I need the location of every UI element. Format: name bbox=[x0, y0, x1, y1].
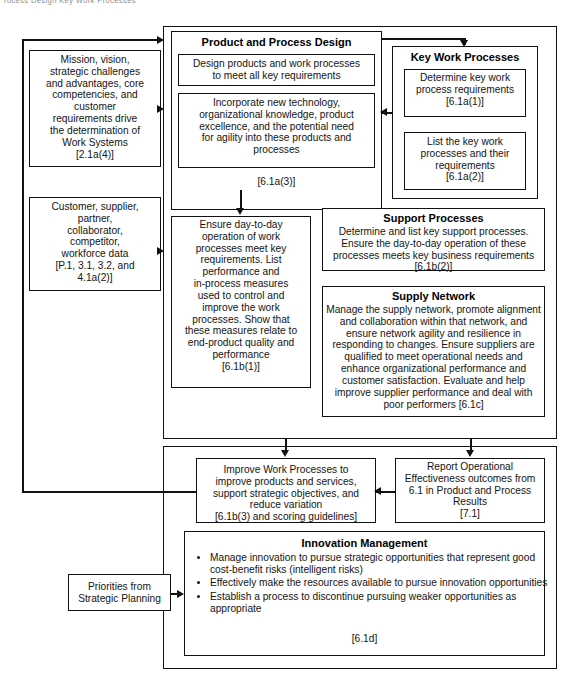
design-to-keywork-arrowhead bbox=[460, 40, 468, 47]
feedback-loop-bottom-segment bbox=[22, 491, 196, 493]
input-box-customer-data-text: Customer, supplier, partner, collaborato… bbox=[31, 201, 159, 284]
support-processes-text: Determine and list key support processes… bbox=[323, 226, 544, 273]
product-and-process-design-title: Product and Process Design bbox=[171, 36, 382, 49]
upper-to-improve-arrowhead bbox=[281, 450, 289, 457]
feedback-loop-vertical-left bbox=[22, 39, 24, 492]
innovation-management-bullet-list: Manage innovation to pursue strategic op… bbox=[197, 552, 548, 616]
input-box-priorities-text: Priorities from Strategic Planning bbox=[69, 581, 170, 605]
product-and-process-design-code: [6.1a(3)] bbox=[171, 176, 382, 188]
top-cropped-text-fragment: rocess Design Key Work Processes bbox=[4, 0, 136, 5]
innovation-management-title: Innovation Management bbox=[184, 537, 545, 550]
list-item: Establish a process to discontinue pursu… bbox=[210, 591, 548, 615]
upper-to-report-arrowhead bbox=[466, 450, 474, 457]
supply-network-text: Manage the supply network, promote align… bbox=[323, 304, 544, 410]
feedback-loop-top-segment bbox=[22, 39, 161, 41]
work-process-management-text: Ensure day-to-day operation of work proc… bbox=[172, 219, 310, 373]
design-products-text: Design products and work processes to me… bbox=[179, 58, 374, 82]
report-to-improve-arrowhead bbox=[374, 487, 381, 495]
design-to-keywork-horizontal bbox=[382, 38, 465, 40]
improve-work-processes-text: Improve Work Processes to improve produc… bbox=[197, 464, 375, 523]
customer-data-to-container-arrowhead bbox=[157, 247, 164, 255]
design-to-workprocess-arrowhead bbox=[236, 208, 244, 215]
priorities-to-innovation-arrowhead bbox=[177, 590, 184, 598]
report-results-text: Report Operational Effectiveness outcome… bbox=[396, 461, 544, 520]
feedback-loop-top-arrowhead bbox=[157, 36, 164, 44]
innovation-management-code: [6.1d] bbox=[184, 633, 545, 645]
keywork-to-design-arrowhead bbox=[380, 108, 387, 116]
input-box-mission-vision-text: Mission, vision, strategic challenges an… bbox=[31, 54, 159, 160]
mission-to-design-arrowhead bbox=[157, 105, 164, 113]
design-to-workprocess-vertical bbox=[240, 190, 242, 209]
key-work-processes-title: Key Work Processes bbox=[392, 51, 538, 64]
incorporate-technology-text: Incorporate new technology, organization… bbox=[179, 97, 374, 156]
supply-network-title: Supply Network bbox=[322, 290, 545, 303]
list-key-work-processes-text: List the key work processes and their re… bbox=[405, 136, 525, 183]
support-processes-title: Support Processes bbox=[322, 212, 545, 225]
diagram-canvas: rocess Design Key Work Processes Mission… bbox=[0, 0, 564, 679]
determine-key-work-process-requirements-text: Determine key work process requirements … bbox=[405, 72, 525, 107]
list-item: Manage innovation to pursue strategic op… bbox=[210, 552, 548, 576]
list-item: Effectively make the resources available… bbox=[210, 577, 548, 589]
